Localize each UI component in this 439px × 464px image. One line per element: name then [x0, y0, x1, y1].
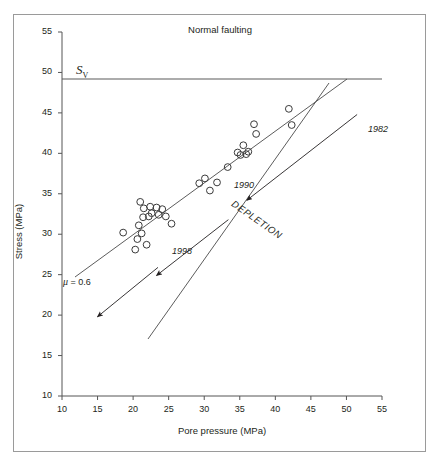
x-tick-label: 35 [227, 404, 253, 414]
y-tick-label: 45 [26, 107, 52, 117]
mu-friction-label: μ = 0.6 [63, 276, 91, 287]
data-point [202, 175, 209, 182]
data-point [207, 187, 214, 194]
x-tick-label: 25 [156, 404, 182, 414]
y-tick-label: 40 [26, 147, 52, 157]
data-point [214, 179, 221, 186]
x-tick-label: 20 [120, 404, 146, 414]
data-point [143, 241, 150, 248]
x-tick-label: 30 [191, 404, 217, 414]
y-tick-label: 15 [26, 350, 52, 360]
data-point [140, 205, 147, 212]
x-tick-label: 40 [262, 404, 288, 414]
x-tick-label: 10 [49, 404, 75, 414]
arrow-1998 [98, 267, 158, 316]
y-axis-ticks [58, 32, 62, 396]
axis-lines [62, 32, 382, 396]
data-point [147, 203, 154, 210]
annotation-year-1990: 1990 [234, 180, 254, 190]
data-point [196, 180, 203, 187]
data-point [240, 142, 247, 149]
x-tick-label: 50 [333, 404, 359, 414]
chart-title: Normal faulting [150, 24, 290, 35]
y-tick-label: 20 [26, 309, 52, 319]
annotation-year-1998: 1998 [172, 246, 192, 256]
x-axis-title: Pore pressure (MPa) [152, 425, 292, 436]
y-tick-label: 30 [26, 228, 52, 238]
mu-failure-line [75, 79, 347, 277]
figure-root: 1015202530354045505510152025303540455055… [0, 0, 439, 464]
data-point [251, 121, 258, 128]
x-tick-label: 15 [85, 404, 111, 414]
data-point [168, 220, 175, 227]
mu-symbol: μ [63, 276, 68, 287]
y-axis-title: Stress (MPa) [13, 192, 24, 272]
arrow-1982 [247, 115, 357, 201]
annotation-arrows [98, 115, 358, 317]
data-point [132, 246, 139, 253]
x-tick-label: 55 [369, 404, 395, 414]
plot-canvas [0, 0, 439, 464]
data-point [285, 105, 292, 112]
arrow-1990 [157, 220, 229, 276]
y-tick-label: 50 [26, 66, 52, 76]
data-point [288, 122, 295, 129]
y-tick-label: 55 [26, 26, 52, 36]
sv-stress-label: SV [76, 62, 88, 80]
x-axis-ticks [62, 396, 382, 400]
data-point [138, 230, 145, 237]
data-point [162, 213, 169, 220]
y-tick-label: 10 [26, 390, 52, 400]
mu-value: = 0.6 [71, 277, 91, 287]
y-tick-label: 35 [26, 188, 52, 198]
annotation-year-1982: 1982 [368, 124, 388, 134]
data-point [135, 222, 142, 229]
data-point [137, 198, 144, 205]
data-point [253, 131, 260, 138]
x-tick-label: 45 [298, 404, 324, 414]
y-tick-label: 25 [26, 269, 52, 279]
sv-subscript: V [83, 71, 89, 80]
data-point [120, 229, 127, 236]
